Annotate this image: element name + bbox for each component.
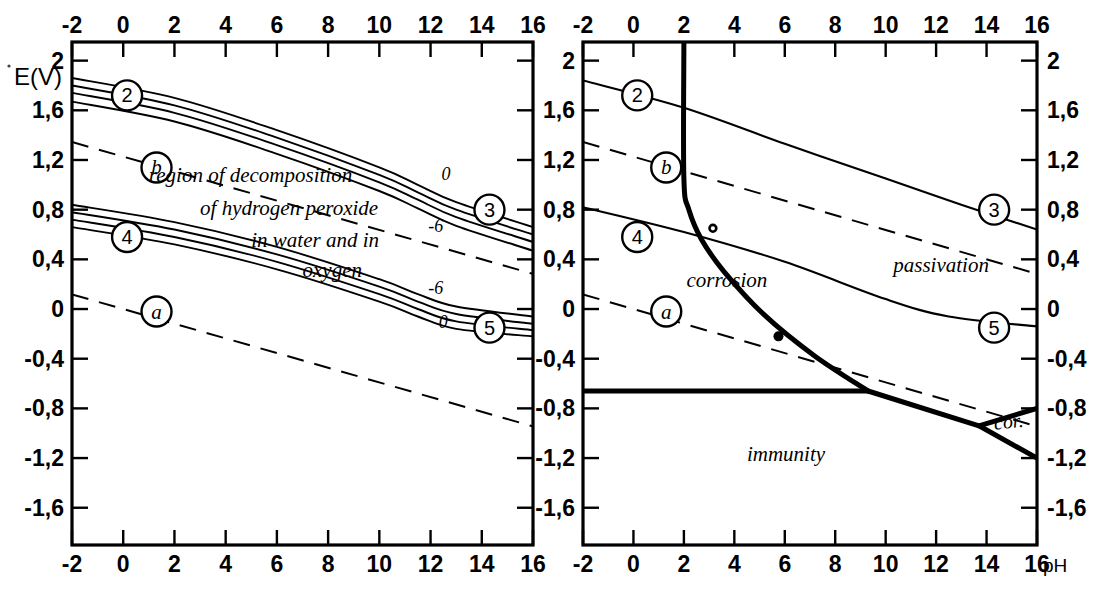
panel-right: -2-200224466881010121214141616221,61,61,… [535, 12, 1086, 577]
badge-label-right-5: 5 [989, 317, 1000, 339]
badge-label-right-2: 2 [632, 84, 643, 106]
badge-label-right-3: 3 [989, 199, 1000, 221]
xtick-label-top-left-5: 8 [322, 12, 335, 38]
figure-canvas: -2-20022446688101012121414161621,61,20,8… [0, 0, 1099, 592]
right-region-label-corrosion: corrosion [686, 268, 767, 292]
badge-left-a: a [142, 297, 172, 327]
ytick-label-right-right-5: 0 [1047, 296, 1060, 322]
left-region-text-line-0: region of decomposition [149, 163, 352, 187]
xtick-label-bottom-right-3: 4 [728, 551, 741, 577]
left-region-text-line-2: in water and in [251, 228, 379, 252]
ytick-label-left-right-0: 2 [562, 48, 575, 74]
badge-label-left-4: 4 [122, 226, 133, 248]
xtick-label-top-left-7: 12 [418, 12, 444, 38]
xtick-label-bottom-right-5: 8 [829, 551, 842, 577]
ytick-label-left-right-7: -0,8 [535, 395, 575, 421]
left-curve-label-0: 0 [441, 164, 450, 184]
panel-left: -2-20022446688101012121414161621,61,20,8… [24, 12, 545, 577]
xtick-label-top-left-0: -2 [62, 12, 82, 38]
xtick-label-top-right-8: 14 [974, 12, 1000, 38]
ytick-label-left-right-5: 0 [562, 296, 575, 322]
ytick-label-right-right-7: -0,8 [1047, 395, 1087, 421]
x-axis-unit-label: pH [1043, 555, 1067, 576]
ytick-label-left-right-6: -0,4 [535, 346, 575, 372]
xtick-label-bottom-left-6: 10 [367, 551, 393, 577]
xtick-label-bottom-left-9: 16 [520, 551, 546, 577]
ytick-label-left-left-8: -1,2 [24, 445, 64, 471]
left-curve-label-1: -6 [428, 216, 443, 236]
xtick-label-bottom-left-8: 14 [469, 551, 495, 577]
badge-right-3: 3 [979, 195, 1009, 225]
marker-open-circle-0 [709, 225, 716, 232]
ytick-label-right-right-2: 1,2 [1047, 147, 1079, 173]
xtick-label-bottom-left-7: 12 [418, 551, 444, 577]
plot-frame-left [72, 42, 533, 545]
pourbaix-diagram-svg: -2-20022446688101012121414161621,61,20,8… [0, 0, 1099, 592]
badge-label-left-2: 2 [122, 84, 133, 106]
badge-left-4: 4 [112, 222, 142, 252]
ytick-label-left-left-4: 0,4 [32, 246, 64, 272]
badge-right-b: b [651, 152, 681, 182]
left-curve-label-2: -6 [428, 278, 443, 298]
xtick-label-top-right-4: 6 [778, 12, 791, 38]
xtick-label-top-left-2: 2 [168, 12, 181, 38]
badge-right-5: 5 [979, 313, 1009, 343]
xtick-label-top-left-3: 4 [219, 12, 232, 38]
xtick-label-bottom-right-1: 0 [627, 551, 640, 577]
ytick-label-left-right-8: -1,2 [535, 445, 575, 471]
xtick-label-bottom-left-4: 6 [270, 551, 283, 577]
ytick-label-right-right-8: -1,2 [1047, 445, 1087, 471]
ytick-label-left-right-3: 0,8 [543, 197, 575, 223]
xtick-label-top-right-3: 4 [728, 12, 741, 38]
scan-speck [7, 64, 10, 67]
badge-label-right-b: b [661, 155, 672, 179]
xtick-label-top-right-5: 8 [829, 12, 842, 38]
badge-left-5: 5 [474, 313, 504, 343]
badge-right-4: 4 [622, 222, 652, 252]
xtick-label-bottom-right-8: 14 [974, 551, 1000, 577]
ytick-label-left-right-9: -1,6 [535, 495, 575, 521]
badge-left-3: 3 [474, 195, 504, 225]
xtick-label-top-right-0: -2 [573, 12, 593, 38]
ytick-label-left-left-9: -1,6 [24, 495, 64, 521]
xtick-label-top-right-6: 10 [873, 12, 899, 38]
ytick-label-right-right-6: -0,4 [1047, 346, 1087, 372]
xtick-label-top-left-9: 16 [520, 12, 546, 38]
right-region-label-immunity: immunity [747, 442, 826, 466]
ytick-label-left-left-1: 1,6 [32, 97, 64, 123]
xtick-label-top-left-8: 14 [469, 12, 495, 38]
xtick-label-bottom-left-2: 2 [168, 551, 181, 577]
xtick-label-bottom-left-0: -2 [62, 551, 82, 577]
xtick-label-bottom-left-5: 8 [322, 551, 335, 577]
xtick-label-top-left-6: 10 [367, 12, 393, 38]
ytick-label-left-left-7: -0,8 [24, 395, 64, 421]
xtick-label-top-right-9: 16 [1024, 12, 1050, 38]
ytick-label-left-left-6: -0,4 [24, 346, 64, 372]
ytick-label-right-right-4: 0,4 [1047, 246, 1079, 272]
marker-filled-dot-1 [773, 331, 783, 341]
badge-label-right-a: a [661, 300, 672, 324]
xtick-label-bottom-right-7: 12 [923, 551, 949, 577]
ytick-label-right-right-9: -1,6 [1047, 495, 1087, 521]
xtick-label-top-right-2: 2 [677, 12, 690, 38]
ytick-label-right-right-1: 1,6 [1047, 97, 1079, 123]
plot-frame-right [583, 42, 1037, 545]
xtick-label-bottom-right-6: 10 [873, 551, 899, 577]
ytick-label-left-right-4: 0,4 [543, 246, 575, 272]
ytick-label-right-right-3: 0,8 [1047, 197, 1079, 223]
ytick-label-left-right-1: 1,6 [543, 97, 575, 123]
xtick-label-bottom-left-3: 4 [219, 551, 232, 577]
badge-label-left-5: 5 [484, 317, 495, 339]
xtick-label-bottom-right-2: 2 [677, 551, 690, 577]
ytick-label-right-right-0: 2 [1047, 48, 1060, 74]
right-region-label-cor: cor. [993, 409, 1025, 434]
xtick-label-top-right-1: 0 [627, 12, 640, 38]
badge-label-right-4: 4 [632, 226, 643, 248]
ytick-label-left-right-2: 1,2 [543, 147, 575, 173]
badge-right-a: a [651, 297, 681, 327]
xtick-label-top-left-4: 6 [270, 12, 283, 38]
ytick-label-left-left-2: 1,2 [32, 147, 64, 173]
xtick-label-bottom-right-4: 6 [778, 551, 791, 577]
xtick-label-top-left-1: 0 [117, 12, 130, 38]
badge-label-left-3: 3 [484, 199, 495, 221]
